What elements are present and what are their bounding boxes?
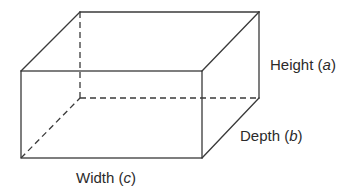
depth-label-variable: b — [289, 127, 297, 144]
height-label-close-paren: ) — [331, 56, 336, 73]
width-label-close-paren: ) — [131, 169, 136, 186]
depth-label-word: Depth — [240, 127, 280, 144]
width-label-open-paren: ( — [114, 169, 123, 186]
depth-label: Depth (b) — [240, 127, 303, 144]
height-label-word: Height — [270, 56, 314, 73]
hidden-bottom-left-depth-edge — [21, 98, 80, 158]
depth-label-close-paren: ) — [298, 127, 303, 144]
height-label-open-paren: ( — [313, 56, 322, 73]
depth-label-open-paren: ( — [280, 127, 289, 144]
rectangular-prism-diagram: Height (a) Depth (b) Width (c) — [0, 0, 360, 189]
front-face — [21, 71, 202, 158]
height-label-variable: a — [323, 56, 331, 73]
top-left-depth-edge — [21, 12, 80, 71]
width-label: Width (c) — [76, 169, 136, 186]
height-label: Height (a) — [270, 56, 336, 73]
width-label-word: Width — [76, 169, 114, 186]
top-right-depth-edge — [202, 12, 259, 71]
